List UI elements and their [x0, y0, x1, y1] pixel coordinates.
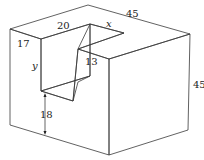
label-right-height: 45 [193, 79, 204, 90]
right-face [109, 34, 190, 155]
notch-back-wall [41, 24, 90, 91]
label-bottom-height: 18 [40, 109, 53, 120]
label-notch-depth: x [106, 18, 112, 29]
label-notch-height: y [31, 60, 38, 71]
top-face [10, 5, 190, 59]
block-diagram: 45 20 x 17 y 13 18 45 [0, 0, 204, 160]
label-top-width: 45 [126, 8, 139, 19]
notch-side-wall [78, 24, 124, 49]
notch-floor [41, 76, 90, 101]
label-left-margin: 17 [17, 38, 30, 49]
label-notch-width: 20 [57, 20, 70, 31]
label-step: 13 [85, 56, 98, 67]
